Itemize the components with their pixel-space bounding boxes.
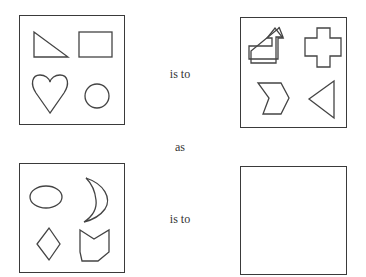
notched-pentagon-icon bbox=[80, 230, 109, 261]
panel-a bbox=[19, 15, 125, 125]
ellipse-icon bbox=[30, 186, 62, 208]
rectangle-icon bbox=[79, 32, 112, 57]
diamond-icon bbox=[37, 228, 60, 260]
heart-icon bbox=[33, 75, 68, 113]
connector-is-to-top: is to bbox=[170, 67, 190, 82]
panel-c-shapes bbox=[20, 164, 126, 274]
panel-a-shapes bbox=[20, 16, 126, 126]
panel-c bbox=[19, 163, 125, 273]
panel-b-shapes bbox=[241, 18, 348, 129]
l-arrow-icon bbox=[249, 28, 283, 59]
connector-is-to-bottom: is to bbox=[170, 212, 190, 227]
answer-panel-d bbox=[240, 166, 347, 275]
panel-b bbox=[240, 17, 347, 128]
left-triangle-icon bbox=[309, 81, 334, 118]
chevron-icon bbox=[258, 83, 289, 114]
right-triangle-icon bbox=[34, 32, 68, 57]
circle-icon bbox=[85, 84, 109, 108]
cross-icon bbox=[305, 28, 341, 67]
connector-as: as bbox=[175, 140, 185, 155]
crescent-moon-icon bbox=[84, 178, 108, 222]
